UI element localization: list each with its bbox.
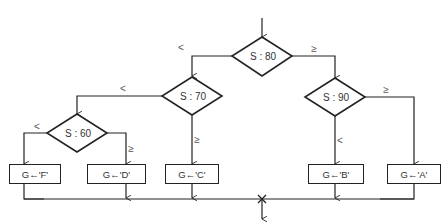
process-grade-f: G←'F' [9, 164, 61, 184]
process-grade-c: G←'C' [165, 164, 219, 184]
flowchart-canvas [0, 0, 447, 224]
edge-F-merge [24, 184, 44, 199]
edge-A-merge [380, 184, 414, 199]
s80-geq-label: ≥ [311, 44, 317, 54]
s90-less-label: < [337, 136, 343, 146]
edge-60-less [24, 133, 47, 164]
decision-s60-label: S : 60 [65, 129, 91, 139]
edge-70-less [77, 96, 162, 114]
s80-less-label: < [178, 43, 184, 53]
s70-geq-label: ≥ [194, 135, 200, 145]
decision-s90-label: S : 90 [323, 93, 349, 103]
process-grade-d: G←'D' [87, 164, 146, 184]
s70-less-label: < [120, 84, 126, 94]
s60-geq-label: ≥ [128, 144, 134, 154]
s60-less-label: < [34, 122, 40, 132]
s90-geq-label: ≥ [383, 85, 389, 95]
edge-80-geq [292, 56, 335, 78]
decision-s80-label: S : 80 [250, 52, 276, 62]
edge-80-less [192, 56, 232, 76]
decision-s70-label: S : 70 [180, 92, 206, 102]
process-grade-b: G←'B' [308, 164, 364, 184]
edge-90-geq [365, 97, 414, 164]
edge-60-geq [107, 133, 126, 164]
process-grade-a: G←'A' [387, 164, 441, 184]
